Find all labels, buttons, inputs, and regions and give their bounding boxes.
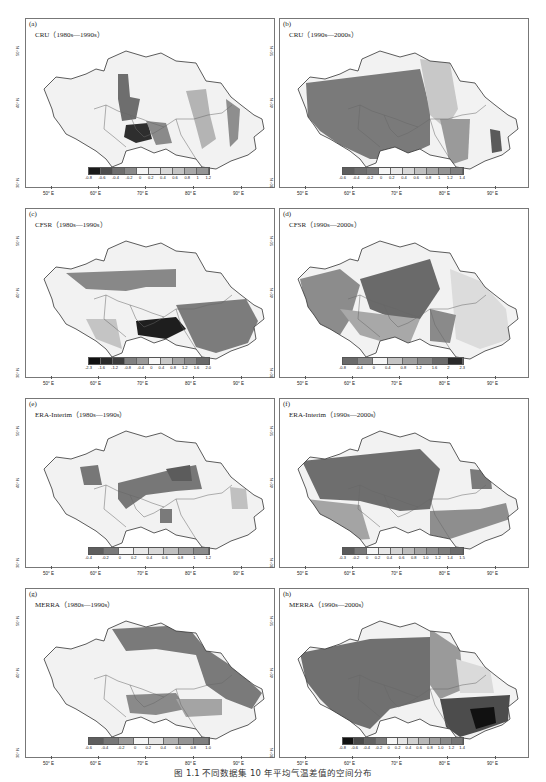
colorbar-labels: -0.4-0.200.20.40.60.811.2 (85, 555, 211, 560)
y-axis-label: 50° N (269, 46, 274, 56)
x-axis-tick (51, 566, 52, 569)
y-axis-label: 50° N (15, 616, 20, 626)
map-panel: (d)CFSR（1990s—2000s）-0.8-0.400.40.81.21.… (279, 208, 529, 378)
x-axis-tick (352, 756, 353, 759)
figure-caption: 图 1.1 不同数据集 10 年平均气温差值的空间分布 (0, 766, 546, 778)
x-axis-label: 80° E (439, 571, 450, 576)
x-axis-tick (241, 756, 242, 759)
x-axis-tick (495, 566, 496, 569)
y-axis-label: 40° N (15, 478, 20, 488)
x-axis-label: 90° E (233, 191, 244, 196)
x-axis-label: 80° E (185, 381, 196, 386)
x-axis-tick (447, 186, 448, 189)
x-axis-tick (495, 186, 496, 189)
map-panel: (a)CRU（1980s—1990s）-0.8-0.6-0.4-0.200.20… (25, 18, 275, 188)
x-axis-label: 60° E (90, 571, 101, 576)
colorbar-labels: -0.6-0.4-0.200.20.40.60.81.0 (85, 745, 211, 750)
y-axis-label: 50° N (15, 46, 20, 56)
x-axis-tick (495, 376, 496, 379)
x-axis-tick (305, 566, 306, 569)
x-axis-tick (305, 186, 306, 189)
panel-letter: (h) (283, 590, 291, 598)
panel-title: ERA-Interim（1990s—2000s） (289, 409, 380, 419)
x-axis-tick (447, 566, 448, 569)
x-axis-label: 80° E (185, 191, 196, 196)
x-axis-tick (98, 376, 99, 379)
temperature-difference-map (26, 19, 274, 187)
panel-letter: (f) (283, 400, 290, 408)
panel-title: CFSR（1990s—2000s） (289, 219, 361, 229)
colorbar-labels: -0.6-0.4-0.200.20.40.60.811.21.4 (339, 175, 465, 180)
temperature-difference-map (26, 399, 274, 567)
x-axis-label: 80° E (439, 191, 450, 196)
panel-title: ERA-Interim（1980s—1990s） (35, 409, 126, 419)
colorbar (88, 167, 210, 175)
x-axis-label: 50° E (43, 381, 54, 386)
map-panel: (h)MERRA（1990s—2000s）-0.8-0.6-0.4-0.200.… (279, 588, 529, 758)
y-axis-label: 40° N (15, 98, 20, 108)
x-axis-label: 90° E (487, 191, 498, 196)
y-axis-label: 30° N (15, 368, 20, 378)
y-axis-label: 30° N (269, 558, 274, 568)
x-axis-tick (241, 186, 242, 189)
colorbar-labels: -0.8-0.400.40.81.21.622.3 (339, 365, 465, 370)
x-axis-tick (193, 186, 194, 189)
x-axis-label: 60° E (344, 571, 355, 576)
x-axis-label: 50° E (297, 191, 308, 196)
x-axis-tick (98, 566, 99, 569)
map-panel: (g)MERRA（1980s—1990s）-0.6-0.4-0.200.20.4… (25, 588, 275, 758)
x-axis-label: 70° E (137, 381, 148, 386)
x-axis-label: 70° E (391, 191, 402, 196)
x-axis-label: 50° E (297, 571, 308, 576)
x-axis-tick (447, 376, 448, 379)
y-axis-label: 50° N (15, 426, 20, 436)
x-axis-tick (399, 756, 400, 759)
x-axis-tick (145, 566, 146, 569)
x-axis-label: 80° E (439, 381, 450, 386)
y-axis-label: 50° N (269, 236, 274, 246)
colorbar (88, 547, 210, 555)
temperature-difference-map (26, 589, 274, 757)
y-axis-label: 30° N (269, 178, 274, 188)
panel-title: CFSR（1980s—1990s） (35, 219, 107, 229)
x-axis-tick (193, 756, 194, 759)
colorbar (88, 357, 210, 365)
colorbar-labels: -0.8-0.6-0.4-0.200.20.40.60.81.01.21.4 (339, 745, 465, 750)
x-axis-label: 50° E (43, 191, 54, 196)
x-axis-tick (352, 186, 353, 189)
y-axis-label: 40° N (15, 288, 20, 298)
x-axis-tick (399, 186, 400, 189)
y-axis-label: 40° N (15, 668, 20, 678)
x-axis-tick (98, 186, 99, 189)
temperature-difference-map (280, 209, 528, 377)
x-axis-tick (98, 756, 99, 759)
map-panel: (f)ERA-Interim（1990s—2000s）-0.3-0.200.20… (279, 398, 529, 568)
x-axis-label: 60° E (344, 191, 355, 196)
temperature-difference-map (26, 209, 274, 377)
x-axis-tick (241, 376, 242, 379)
x-axis-label: 90° E (487, 571, 498, 576)
colorbar (88, 737, 210, 745)
map-panel: (b)CRU（1990s—2000s）-0.6-0.4-0.200.20.40.… (279, 18, 529, 188)
colorbar-labels: -2.3-1.6-1.2-0.8-0.400.40.81.21.62.0 (85, 365, 211, 370)
panel-letter: (e) (29, 400, 37, 408)
panel-title: MERRA（1980s—1990s） (35, 599, 114, 609)
x-axis-label: 60° E (344, 381, 355, 386)
y-axis-label: 40° N (269, 668, 274, 678)
y-axis-label: 40° N (269, 478, 274, 488)
panel-title: MERRA（1990s—2000s） (289, 599, 368, 609)
x-axis-tick (399, 566, 400, 569)
panel-letter: (a) (29, 20, 37, 28)
x-axis-tick (399, 376, 400, 379)
y-axis-label: 40° N (269, 288, 274, 298)
map-panel: (e)ERA-Interim（1980s—1990s）-0.4-0.200.20… (25, 398, 275, 568)
x-axis-tick (145, 756, 146, 759)
temperature-difference-map (280, 19, 528, 187)
x-axis-label: 90° E (487, 381, 498, 386)
x-axis-label: 80° E (185, 571, 196, 576)
temperature-difference-map (280, 589, 528, 757)
x-axis-label: 70° E (391, 571, 402, 576)
y-axis-label: 50° N (269, 426, 274, 436)
x-axis-tick (495, 756, 496, 759)
x-axis-tick (352, 376, 353, 379)
